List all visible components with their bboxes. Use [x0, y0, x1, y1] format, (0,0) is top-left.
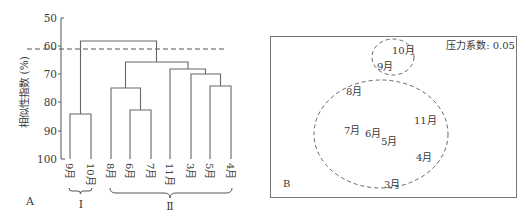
point-8: 8月: [346, 86, 362, 97]
leaf-label-7: 7月: [145, 163, 156, 179]
point-5: 5月: [381, 136, 397, 147]
panel-b-nmds: 压力系数: 0.05 10月 9月 8月 7月 6月 5月 11月 4月 3月 …: [271, 37, 517, 198]
panel-label-a: A: [25, 195, 35, 208]
leaf-label-8: 8月: [105, 163, 116, 179]
point-9: 9月: [377, 61, 393, 72]
leaf-label-6: 6月: [124, 163, 135, 179]
leaf-label-4: 4月: [225, 163, 236, 179]
dendrogram-branches: [70, 41, 231, 159]
point-10: 10月: [392, 45, 415, 56]
brace-group-2: [110, 188, 232, 198]
leaf-label-10: 10月: [85, 163, 96, 186]
stress-label: 压力系数: 0.05: [446, 39, 515, 51]
brace-group-1: [69, 188, 92, 194]
panel-label-b: B: [283, 178, 290, 189]
y-tick-labels: 50 60 70 80 90 100: [37, 12, 57, 165]
leaf-label-9: 9月: [64, 163, 75, 179]
point-3: 3月: [384, 179, 400, 190]
point-labels: 10月 9月 8月 7月 6月 5月 11月 4月 3月: [344, 45, 437, 190]
point-4: 4月: [416, 152, 432, 163]
point-6: 6月: [365, 128, 381, 139]
tick-label-70: 70: [44, 68, 57, 80]
tick-label-90: 90: [44, 125, 57, 137]
tick-label-80: 80: [44, 96, 57, 108]
plot-frame: [271, 37, 517, 198]
tick-label-50: 50: [44, 12, 57, 24]
leaf-label-11: 11月: [164, 163, 175, 186]
group-braces: [69, 188, 232, 198]
point-7: 7月: [344, 125, 360, 136]
tick-label-100: 100: [37, 153, 57, 165]
tick-label-60: 60: [44, 40, 57, 52]
y-axis-label: 相似性指数 (%): [18, 56, 30, 128]
group-label-2: Ⅱ: [166, 200, 173, 213]
point-11: 11月: [414, 115, 437, 126]
figure: 50 60 70 80 90 100 相似性指数 (%): [0, 0, 531, 219]
panel-a-dendrogram: 50 60 70 80 90 100 相似性指数 (%): [18, 12, 236, 213]
leaf-label-3: 3月: [185, 163, 196, 179]
leaf-label-5: 5月: [204, 163, 215, 179]
group-label-1: Ⅰ: [79, 198, 83, 211]
leaf-labels: 9月 10月 8月 6月 7月 11月 3月 5月 4月: [64, 163, 236, 186]
